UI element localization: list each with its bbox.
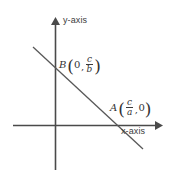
point-a-open-paren: ( <box>118 101 125 118</box>
point-a-close-paren: ) <box>145 101 152 118</box>
point-b-open-paren: ( <box>67 58 74 75</box>
point-b-name: B <box>59 60 67 70</box>
x-axis-label: x-axis <box>121 127 145 136</box>
y-axis <box>51 17 60 170</box>
point-a-comma: , <box>134 105 138 115</box>
point-a-x-denominator: a <box>126 108 133 117</box>
point-b-close-paren: ) <box>94 58 101 75</box>
y-axis-arrowhead <box>51 17 60 25</box>
point-a-label: A ( c a , 0 ) <box>110 98 151 118</box>
x-axis-arrowhead <box>155 121 163 130</box>
coordinate-plane-figure: y-axis x-axis B ( 0 , c b ) A ( c a , 0 … <box>0 0 171 175</box>
point-a-x-fraction: c a <box>125 98 134 118</box>
point-b-label: B ( 0 , c b ) <box>59 55 101 75</box>
point-a-name: A <box>110 103 118 113</box>
y-axis-label: y-axis <box>63 16 87 25</box>
point-b-y-denominator: b <box>86 65 94 74</box>
graph-canvas <box>0 0 171 175</box>
point-b-y-fraction: c b <box>85 55 95 75</box>
